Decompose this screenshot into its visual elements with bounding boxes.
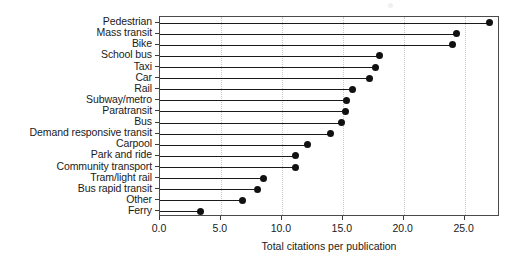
x-axis-tick-label: 0.0 xyxy=(152,222,167,234)
lollipop-stem xyxy=(160,156,295,157)
data-point-marker xyxy=(239,197,246,204)
y-axis-tick xyxy=(155,88,159,89)
x-axis-tick-marks xyxy=(159,216,499,222)
y-axis-label: Car xyxy=(135,72,152,83)
data-point-marker xyxy=(486,19,493,26)
x-axis-title: Total citations per publication xyxy=(159,240,499,252)
lollipop-stem xyxy=(160,123,342,124)
y-axis-tick xyxy=(155,199,159,200)
data-point-marker xyxy=(342,108,349,115)
data-point-marker xyxy=(372,64,379,71)
gridline-15.0 xyxy=(343,17,345,215)
lollipop-stem xyxy=(160,89,353,90)
data-point-marker xyxy=(197,208,204,215)
data-point-marker xyxy=(449,41,456,48)
y-axis-tick xyxy=(155,122,159,123)
y-axis-tick xyxy=(155,22,159,23)
lollipop-stem xyxy=(160,211,200,212)
data-point-marker xyxy=(376,52,383,59)
data-point-marker xyxy=(453,30,460,37)
lollipop-stem xyxy=(160,134,331,135)
lollipop-stem xyxy=(160,189,257,190)
y-axis-tick xyxy=(155,188,159,189)
x-axis-tick-label: 15.0 xyxy=(332,222,352,234)
lollipop-stem xyxy=(160,200,243,201)
y-axis-tick xyxy=(155,33,159,34)
data-point-marker xyxy=(327,130,334,137)
x-axis-tick-label: 25.0 xyxy=(453,222,473,234)
x-axis-tick xyxy=(403,216,404,220)
y-axis-label: Ferry xyxy=(128,205,152,216)
lollipop-stem xyxy=(160,67,376,68)
y-axis-tick xyxy=(155,55,159,56)
data-point-marker xyxy=(366,75,373,82)
y-axis-tick xyxy=(155,99,159,100)
y-axis-tick xyxy=(155,44,159,45)
x-axis-tick xyxy=(281,216,282,220)
y-axis-tick xyxy=(155,110,159,111)
y-axis-label: Community transport xyxy=(56,161,152,172)
y-axis-tick xyxy=(155,210,159,211)
y-axis-label: Tram/light rail xyxy=(90,172,152,183)
lollipop-stem xyxy=(160,167,295,168)
y-axis-label: Park and ride xyxy=(91,149,152,160)
y-axis-tick xyxy=(155,144,159,145)
data-point-marker xyxy=(292,164,299,171)
gridline-5.0 xyxy=(221,17,223,215)
gridline-20.0 xyxy=(404,17,406,215)
x-axis-tick-label: 10.0 xyxy=(271,222,291,234)
data-point-marker xyxy=(254,186,261,193)
lollipop-stem xyxy=(160,34,456,35)
y-axis-tick xyxy=(155,155,159,156)
y-axis-tick xyxy=(155,66,159,67)
x-axis-tick xyxy=(220,216,221,220)
lollipop-stem xyxy=(160,111,345,112)
y-axis-category-labels: PedestrianMass transitBikeSchool busTaxi… xyxy=(0,16,152,216)
gridline-25.0 xyxy=(465,17,467,215)
lollipop-stem xyxy=(160,23,489,24)
lollipop-stem xyxy=(160,100,346,101)
data-point-marker xyxy=(349,86,356,93)
lollipop-stem xyxy=(160,45,452,46)
chart-container: PedestrianMass transitBikeSchool busTaxi… xyxy=(0,0,519,264)
y-axis-label: School bus xyxy=(101,49,152,60)
plot-area xyxy=(159,16,499,216)
x-axis-tick xyxy=(159,216,160,220)
gridline-10.0 xyxy=(282,17,284,215)
lollipop-stem xyxy=(160,178,264,179)
data-point-marker xyxy=(343,97,350,104)
lollipop-stem xyxy=(160,56,379,57)
data-point-marker xyxy=(304,141,311,148)
y-axis-tick xyxy=(155,77,159,78)
x-axis-tick xyxy=(464,216,465,220)
y-axis-tick xyxy=(155,166,159,167)
image-artifact xyxy=(388,3,393,8)
data-point-marker xyxy=(260,175,267,182)
y-axis-label: Taxi xyxy=(134,61,152,72)
x-axis-tick-label: 20.0 xyxy=(393,222,413,234)
lollipop-stem xyxy=(160,145,307,146)
y-axis-tick xyxy=(155,177,159,178)
lollipop-stem xyxy=(160,78,370,79)
data-point-marker xyxy=(292,152,299,159)
x-axis-tick xyxy=(342,216,343,220)
x-axis-tick-label: 5.0 xyxy=(213,222,228,234)
y-axis-tick xyxy=(155,133,159,134)
